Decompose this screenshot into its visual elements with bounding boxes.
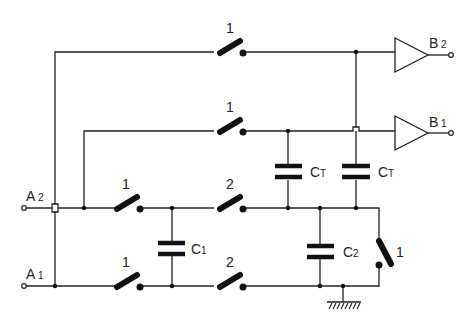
svg-text:C: C	[191, 241, 201, 257]
svg-text:A: A	[26, 266, 36, 282]
svg-text:2: 2	[226, 254, 234, 270]
svg-text:B: B	[429, 114, 438, 130]
svg-text:1: 1	[201, 245, 207, 256]
ground-icon	[327, 302, 361, 309]
svg-text:1: 1	[396, 244, 404, 260]
svg-text:A: A	[26, 188, 36, 204]
terminal-b2	[449, 53, 454, 58]
svg-text:C: C	[378, 164, 388, 180]
switch-a1-phase2: 2	[220, 254, 247, 291]
label-a2: A 2	[26, 188, 44, 204]
svg-text:1: 1	[122, 254, 130, 270]
svg-text:1: 1	[441, 118, 447, 129]
switch-a2-phase2: 2	[220, 176, 247, 213]
svg-text:T: T	[388, 168, 394, 179]
switch-top-b2: 1	[220, 20, 247, 57]
svg-text:1: 1	[122, 176, 130, 192]
buffer-b2: B 2	[395, 35, 447, 72]
switch-top-b1: 1	[220, 99, 247, 136]
terminal-a2	[22, 206, 27, 211]
circuit-diagram: 1 1 1 2 1 2 1 C T C T	[0, 0, 476, 330]
capacitor-ct-right: C T	[342, 164, 394, 180]
svg-text:2: 2	[441, 39, 447, 50]
terminal-b1	[449, 131, 454, 136]
capacitor-ct-left: C T	[275, 164, 326, 180]
svg-text:C: C	[310, 164, 320, 180]
svg-text:T: T	[320, 168, 326, 179]
svg-text:2: 2	[38, 192, 44, 203]
switch-a1-phase1: 1	[117, 254, 144, 291]
label-a1: A 1	[26, 266, 44, 282]
svg-text:1: 1	[226, 20, 234, 36]
svg-text:2: 2	[226, 176, 234, 192]
capacitor-c1: C 1	[158, 241, 207, 257]
svg-text:2: 2	[353, 248, 359, 259]
buffer-b1: B 1	[395, 114, 447, 150]
switch-a2-phase1: 1	[117, 176, 144, 213]
svg-text:1: 1	[38, 270, 44, 281]
terminal-a1	[22, 284, 27, 289]
switch-right-vertical: 1	[376, 241, 405, 269]
capacitor-c2: C 2	[307, 244, 359, 260]
svg-text:C: C	[343, 244, 353, 260]
svg-text:1: 1	[226, 99, 234, 115]
svg-text:B: B	[429, 35, 438, 51]
